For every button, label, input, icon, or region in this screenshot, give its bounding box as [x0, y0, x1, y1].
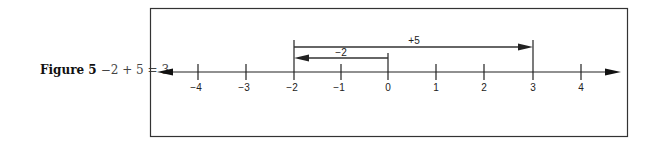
left-arrowhead-icon — [294, 55, 309, 62]
left-arrowhead-icon — [157, 69, 173, 76]
tick-label: 3 — [530, 82, 536, 93]
vector-label: +5 — [408, 35, 420, 46]
minus-two-vector: −2 — [294, 47, 388, 62]
vector-label: −2 — [335, 47, 347, 58]
tick-label: −4 — [190, 82, 202, 93]
tick-label: −2 — [286, 82, 298, 93]
tick-label: −3 — [238, 82, 250, 93]
tick-labels: −4 −3 −2 −1 0 1 2 3 4 — [190, 82, 584, 93]
tick-label: 0 — [385, 82, 391, 93]
tick-label: −1 — [333, 82, 345, 93]
tick-label: 2 — [481, 82, 487, 93]
number-line-diagram: −4 −3 −2 −1 0 1 2 3 4 +5 −2 — [0, 0, 650, 153]
tick-label: 4 — [578, 82, 584, 93]
plus-five-vector: +5 — [294, 35, 533, 51]
tick-label: 1 — [433, 82, 439, 93]
number-line-axis — [157, 69, 621, 76]
right-arrowhead-icon — [605, 69, 621, 76]
right-arrowhead-icon — [518, 44, 533, 51]
